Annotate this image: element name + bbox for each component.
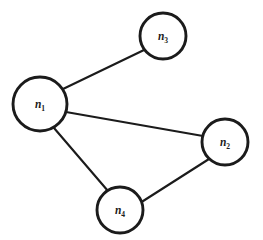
edge-n1-n3[interactable] xyxy=(63,50,144,89)
graph-svg: n1 n2 n3 n4 xyxy=(0,0,263,240)
node-n3[interactable]: n3 xyxy=(140,13,186,59)
edge-n1-n4[interactable] xyxy=(54,128,108,191)
node-n2-label-subscript: 2 xyxy=(226,142,230,151)
node-n1[interactable]: n1 xyxy=(13,77,67,131)
node-n4-label-subscript: 4 xyxy=(121,210,125,219)
edge-n1-n2[interactable] xyxy=(66,112,203,136)
edge-layer xyxy=(54,50,209,203)
node-n2[interactable]: n2 xyxy=(202,119,248,165)
graph-diagram-canvas: n1 n2 n3 n4 xyxy=(0,0,263,240)
node-n1-label-subscript: 1 xyxy=(41,104,45,113)
node-n4[interactable]: n4 xyxy=(97,187,143,233)
edge-n2-n4[interactable] xyxy=(140,159,209,203)
node-n3-label-subscript: 3 xyxy=(164,36,168,45)
